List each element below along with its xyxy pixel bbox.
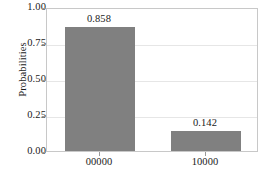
bar-chart: Probabilities 1.00 0.75 0.50 0.25 0.00 0… bbox=[0, 0, 269, 177]
x-tick-label-10000: 10000 bbox=[170, 156, 240, 167]
y-tick-label-1.00: 1.00 bbox=[27, 1, 46, 12]
bar-10000 bbox=[171, 131, 240, 151]
y-tick-label-0.00: 0.00 bbox=[27, 145, 46, 156]
y-tick-mark-0.00 bbox=[42, 152, 46, 153]
y-tick-label-0.25: 0.25 bbox=[27, 109, 46, 120]
bar-00000 bbox=[65, 27, 134, 151]
plot-area bbox=[46, 8, 258, 152]
y-tick-label-0.75: 0.75 bbox=[27, 37, 46, 48]
y-tick-label-0.50: 0.50 bbox=[27, 73, 46, 84]
x-tick-label-00000: 00000 bbox=[64, 156, 134, 167]
plot-inner bbox=[47, 9, 257, 151]
y-axis-title: Probabilities bbox=[17, 5, 28, 135]
bar-value-label-10000: 0.142 bbox=[175, 117, 235, 128]
bar-value-label-00000: 0.858 bbox=[69, 13, 129, 24]
